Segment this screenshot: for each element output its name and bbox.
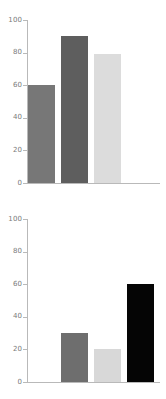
y-tick-label-20-top: 20 — [1, 147, 22, 154]
x-axis-spine-bottom — [27, 382, 160, 383]
bar-top-3 — [94, 54, 121, 183]
bar-top-1 — [28, 85, 55, 183]
bar-bottom-3 — [94, 349, 121, 382]
bar-bottom-4 — [127, 284, 154, 382]
bar-chart-top: 100 80 60 40 20 0 — [0, 0, 166, 200]
y-tick-0-bottom — [23, 382, 27, 383]
y-tick-label-60-bottom: 60 — [1, 281, 22, 288]
bar-chart-bottom: 100 80 60 40 20 0 — [0, 200, 166, 399]
bar-top-2 — [61, 36, 88, 183]
bars-top — [27, 20, 160, 183]
y-tick-label-0-bottom: 0 — [1, 379, 22, 386]
y-tick-0-top — [23, 183, 27, 184]
x-axis-spine-top — [27, 183, 160, 184]
y-tick-label-40-top: 40 — [1, 114, 22, 121]
y-tick-label-100-top: 100 — [1, 17, 22, 24]
bar-bottom-2 — [61, 333, 88, 382]
y-tick-label-0-top: 0 — [1, 180, 22, 187]
y-tick-label-20-bottom: 20 — [1, 346, 22, 353]
y-tick-label-80-bottom: 80 — [1, 248, 22, 255]
y-tick-label-100-bottom: 100 — [1, 216, 22, 223]
y-tick-label-40-bottom: 40 — [1, 313, 22, 320]
y-tick-label-60-top: 60 — [1, 82, 22, 89]
y-tick-label-80-top: 80 — [1, 49, 22, 56]
bars-bottom — [27, 219, 160, 382]
